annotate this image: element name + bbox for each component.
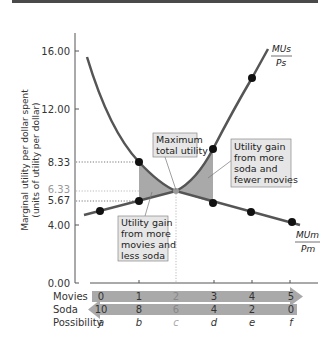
svg-text:MUs: MUs (272, 44, 291, 54)
svg-text:5: 5 (288, 291, 294, 302)
svg-text:4: 4 (249, 291, 255, 302)
ytick-5-67: 5.67 (48, 195, 70, 206)
ytick-12: 12.00 (41, 104, 70, 115)
svg-text:from more: from more (121, 228, 171, 239)
svg-text:2: 2 (173, 291, 179, 302)
row-label-possibility: Possibility (53, 317, 103, 328)
soda-arrow (88, 300, 297, 319)
svg-text:c: c (173, 317, 179, 328)
svg-text:fewer movies: fewer movies (234, 174, 298, 185)
mu-soda-label: MUs Ps (271, 44, 292, 68)
svg-text:6: 6 (173, 304, 179, 315)
marginal-utility-chart: 16.00 12.00 8.33 6.33 5.67 4.00 0.00 Mar… (0, 0, 333, 342)
y-axis-units: (units of utility per dollar) (31, 102, 41, 217)
svg-text:e: e (249, 317, 255, 328)
svg-text:f: f (289, 317, 294, 328)
ytick-16: 16.00 (41, 46, 70, 57)
svg-text:less soda: less soda (121, 250, 165, 261)
svg-text:Ps: Ps (276, 58, 286, 68)
svg-text:b: b (136, 317, 142, 328)
svg-text:d: d (211, 317, 218, 328)
mu-movies-line (84, 191, 300, 225)
svg-text:Utility gain: Utility gain (234, 141, 285, 152)
ytick-8-33: 8.33 (48, 157, 70, 168)
mu-movies-label: MUm Pm (295, 230, 320, 254)
svg-text:from more: from more (234, 152, 284, 163)
ytick-6-33: 6.33 (48, 184, 70, 195)
annotation-left-gain: Utility gain from more movies and less s… (118, 216, 176, 261)
ytick-0: 0.00 (48, 278, 70, 289)
svg-text:Maximum: Maximum (156, 134, 203, 145)
svg-text:4: 4 (211, 304, 217, 315)
svg-text:0: 0 (288, 304, 294, 315)
svg-text:0: 0 (98, 291, 104, 302)
svg-text:Utility gain: Utility gain (121, 217, 172, 228)
svg-text:3: 3 (211, 291, 217, 302)
svg-text:soda and: soda and (234, 163, 278, 174)
annotation-right-gain: Utility gain from more soda and fewer mo… (231, 139, 298, 187)
svg-text:total utility: total utility (156, 145, 208, 156)
y-axis-title: Marginal utility per dollar spent (units… (20, 89, 41, 231)
dotted-guides (76, 162, 139, 201)
svg-text:2: 2 (249, 304, 255, 315)
svg-text:a: a (98, 317, 104, 328)
svg-text:10: 10 (95, 304, 108, 315)
row-label-soda: Soda (53, 304, 78, 315)
svg-text:Pm: Pm (301, 244, 315, 254)
y-ticks (75, 51, 79, 283)
movies-arrow (92, 287, 303, 306)
svg-text:8: 8 (136, 304, 142, 315)
row-label-movies: Movies (53, 291, 88, 302)
annotation-max-utility: Maximum total utility (153, 133, 208, 157)
svg-text:1: 1 (136, 291, 142, 302)
ytick-4: 4.00 (48, 220, 70, 231)
svg-text:movies and: movies and (121, 239, 176, 250)
y-axis-label: Marginal utility per dollar spent (20, 89, 30, 231)
svg-text:MUm: MUm (296, 230, 319, 240)
possibility-values: a b c d e f (98, 317, 294, 328)
